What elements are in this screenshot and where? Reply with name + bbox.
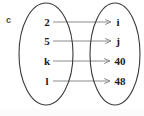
left-set-element: 5: [44, 36, 50, 47]
left-set-element: 2: [44, 17, 50, 28]
right-set-element: 48: [115, 76, 126, 87]
left-set-element: l: [45, 76, 48, 87]
figure-label: c: [6, 16, 11, 25]
right-set-element: i: [116, 17, 119, 28]
bottom-margin-band: [0, 109, 144, 116]
mapping-arrows: [53, 22, 111, 81]
right-set-element: 40: [115, 56, 126, 67]
left-set-element: k: [44, 56, 50, 67]
right-set-element: j: [116, 36, 120, 47]
mapping-diagram: c 25klij4048: [0, 0, 144, 116]
